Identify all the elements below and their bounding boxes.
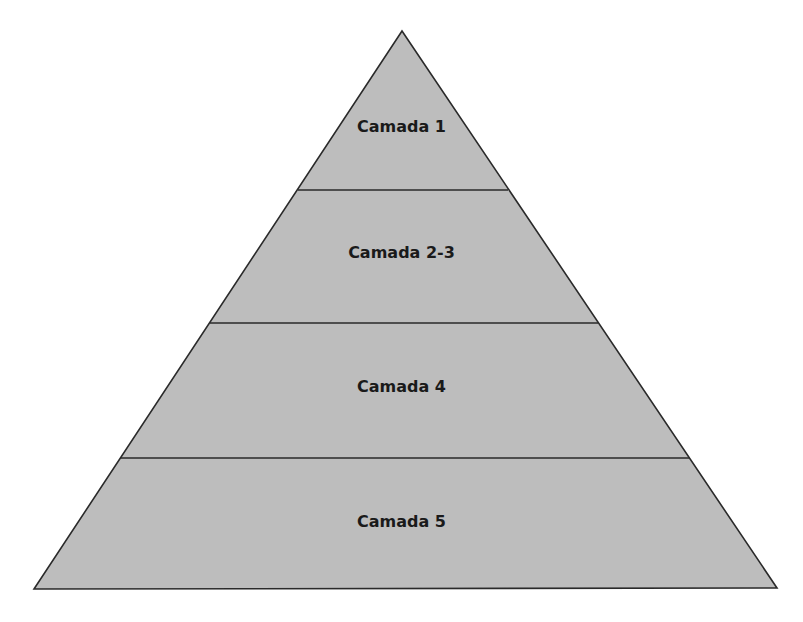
pyramid-diagram: Camada 1 Camada 2-3 Camada 4 Camada 5 (0, 0, 803, 622)
layer-label-2-3: Camada 2-3 (0, 243, 803, 263)
layer-label-5: Camada 5 (0, 512, 803, 532)
layer-label-1: Camada 1 (0, 117, 803, 137)
layer-label-4: Camada 4 (0, 377, 803, 397)
pyramid-body (34, 31, 777, 589)
